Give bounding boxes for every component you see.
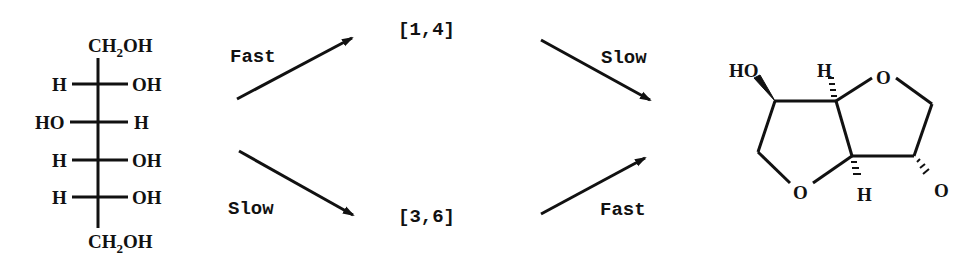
o-ring-bottom-label: O [793, 182, 808, 203]
row3-left: H [52, 150, 67, 171]
o-ring-top-label: O [876, 67, 891, 88]
fischer-projection-sorbitol: CH2OH H OH HO H H OH H OH CH2OH [35, 35, 162, 256]
row3-right: OH [132, 150, 162, 171]
hash-bond-bottom-icon [851, 162, 861, 174]
label-lower-first: Slow [228, 198, 274, 220]
label-upper-first: Fast [230, 46, 276, 68]
hash-bond-right-icon [917, 159, 929, 174]
pathway-arrows: Fast Slow [1,4] [3,6] Slow Fast [228, 19, 650, 228]
label-upper-second: Slow [601, 47, 647, 69]
row1-right: OH [132, 74, 162, 95]
ho-label: HO [729, 60, 759, 81]
row4-right: OH [132, 187, 162, 208]
product-isosorbide-structure [754, 75, 932, 183]
row1-left: H [52, 74, 67, 95]
label-lower-second: Fast [600, 199, 646, 221]
bottom-group: CH2OH [88, 231, 153, 256]
h-top-label: H [817, 60, 832, 81]
intermediate-lower: [3,6] [398, 206, 455, 228]
top-group: CH2OH [88, 35, 153, 60]
h-bottom-label: H [857, 184, 872, 205]
reaction-scheme: CH2OH H OH HO H H OH H OH CH2OH Fast Slo… [0, 0, 976, 270]
row2-right: H [134, 112, 149, 133]
row4-left: H [52, 187, 67, 208]
o-substituent-label: O [934, 180, 949, 201]
intermediate-upper: [1,4] [398, 19, 455, 41]
row2-left: HO [35, 112, 65, 133]
